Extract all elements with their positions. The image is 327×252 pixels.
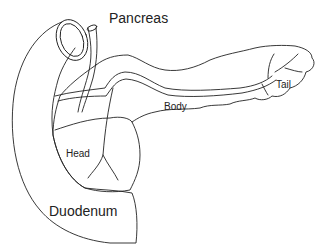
- pancreas-diagram: Pancreas Body Tail Head Duodenum: [0, 0, 327, 252]
- ring-structure-inner: [56, 20, 88, 59]
- tail-branch-3: [285, 68, 302, 72]
- label-body: Body: [164, 102, 187, 112]
- diagram-title: Pancreas: [109, 11, 168, 25]
- label-duodenum: Duodenum: [49, 204, 118, 218]
- head-duct: [88, 88, 113, 178]
- ring-structure-outer: [51, 15, 94, 65]
- label-head: Head: [66, 149, 90, 159]
- head-duct-branch: [103, 155, 118, 180]
- tail-branch-2: [275, 54, 298, 72]
- pancreas-outline: [53, 45, 314, 191]
- label-tail: Tail: [276, 80, 291, 90]
- tail-branch-1: [268, 54, 274, 78]
- head-boundary: [55, 117, 132, 130]
